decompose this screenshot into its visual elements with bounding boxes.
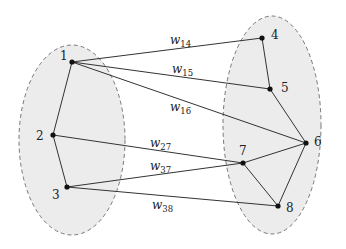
node-1	[69, 59, 74, 64]
node-label-1: 1	[60, 49, 68, 63]
node-3	[64, 184, 69, 189]
node-5	[267, 86, 272, 91]
right-group-ellipse	[223, 16, 321, 234]
edge-weight-14: w14	[170, 33, 191, 49]
node-6	[303, 140, 308, 145]
node-4	[259, 35, 264, 40]
node-label-6: 6	[314, 135, 322, 149]
bipartite-graph: w14w15w16w27w37w3812345678	[0, 0, 346, 249]
node-2	[50, 132, 55, 137]
edge-weight-27: w27	[150, 136, 171, 152]
node-label-8: 8	[286, 201, 294, 215]
node-7	[240, 160, 245, 165]
node-label-3: 3	[52, 188, 60, 202]
node-label-7: 7	[239, 144, 247, 158]
edge-weight-15: w15	[172, 62, 193, 78]
node-label-4: 4	[271, 28, 279, 42]
left-group-ellipse	[19, 45, 125, 235]
node-label-2: 2	[36, 129, 44, 143]
edge-weight-38: w38	[152, 198, 173, 214]
node-label-5: 5	[281, 81, 289, 95]
node-8	[275, 203, 280, 208]
edge-weight-37: w37	[150, 159, 171, 175]
